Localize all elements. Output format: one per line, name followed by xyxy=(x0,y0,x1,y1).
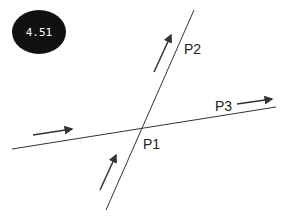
label-p1: P1 xyxy=(143,136,160,152)
arrow-icon-right xyxy=(237,99,272,104)
arrow-icon-left xyxy=(33,129,72,135)
steep-line xyxy=(106,10,194,210)
arrow-icon-upper xyxy=(154,35,171,72)
label-p2: P2 xyxy=(184,41,201,57)
arrow-icon-lower xyxy=(100,155,116,190)
label-p3: P3 xyxy=(215,98,232,114)
intersection-diagram: P1 P2 P3 xyxy=(0,0,282,217)
